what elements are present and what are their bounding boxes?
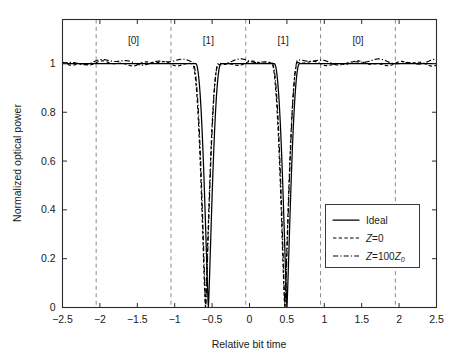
optical-power-chart: −2.5−2−1.5−1−0.500.511.522.5 00.20.40.60… xyxy=(0,0,454,364)
y-tick-label-5: 1 xyxy=(50,57,56,69)
y-tick-label-0: 0 xyxy=(50,301,56,313)
x-tick-label-1: −2 xyxy=(94,313,106,325)
y-axis-label: Normalized optical power xyxy=(11,104,23,222)
chart-background xyxy=(0,0,454,364)
x-tick-label-5: 0 xyxy=(247,313,253,325)
x-tick-label-7: 1 xyxy=(321,313,327,325)
x-tick-label-4: −0.5 xyxy=(202,313,223,325)
legend-label-z0: Z=0 xyxy=(365,233,384,244)
x-tick-label-0: −2.5 xyxy=(52,313,73,325)
x-tick-label-6: 0.5 xyxy=(280,313,295,325)
x-tick-label-10: 2.5 xyxy=(429,313,444,325)
x-tick-label-9: 2 xyxy=(396,313,402,325)
figure-container: −2.5−2−1.5−1−0.500.511.522.5 00.20.40.60… xyxy=(0,0,454,364)
bit-label-1: [1] xyxy=(203,35,214,46)
bit-label-3: [0] xyxy=(352,35,363,46)
legend-label-z0-value: =0 xyxy=(372,233,384,244)
legend-label-ideal: Ideal xyxy=(366,215,388,226)
x-tick-label-8: 1.5 xyxy=(354,313,369,325)
y-tick-label-4: 0.8 xyxy=(41,106,56,118)
bit-label-0: [0] xyxy=(128,35,139,46)
x-tick-label-2: −1.5 xyxy=(127,313,148,325)
x-axis-label: Relative bit time xyxy=(212,338,287,350)
y-tick-label-1: 0.2 xyxy=(41,252,56,264)
bit-label-2: [1] xyxy=(278,35,289,46)
y-tick-label-3: 0.6 xyxy=(41,155,56,167)
y-tick-label-2: 0.4 xyxy=(41,203,56,215)
legend-label-z100-value: =100 xyxy=(372,251,395,262)
x-tick-label-3: −1 xyxy=(169,313,181,325)
chart-legend[interactable]: Ideal Z=0 Z=100Z0 xyxy=(326,205,420,268)
legend-label-z100-subscript: 0 xyxy=(401,255,405,264)
